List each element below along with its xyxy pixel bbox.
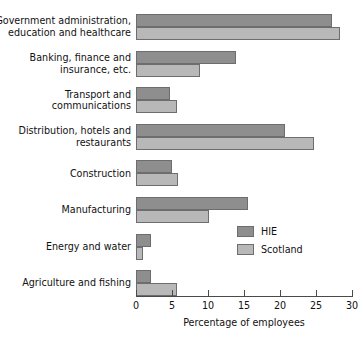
x-tick-5 bbox=[172, 290, 173, 297]
x-tick-15 bbox=[244, 290, 245, 297]
bar-scotland-1 bbox=[136, 64, 200, 77]
category-label-line: restaurants bbox=[19, 137, 131, 149]
category-label-line: insurance, etc. bbox=[30, 64, 131, 76]
bar-hie-7 bbox=[136, 270, 151, 283]
category-label-line: Energy and water bbox=[46, 241, 131, 253]
x-tick-label-0: 0 bbox=[133, 300, 139, 311]
bar-hie-5 bbox=[136, 197, 248, 210]
category-label-line: education and healthcare bbox=[0, 27, 131, 39]
legend-swatch-icon bbox=[237, 244, 254, 255]
bar-scotland-3 bbox=[136, 137, 314, 150]
bar-scotland-6 bbox=[136, 247, 143, 260]
category-label-text: Transport andcommunications bbox=[52, 89, 131, 112]
bar-chart: Government administration,education and … bbox=[0, 0, 363, 350]
bar-scotland-2 bbox=[136, 100, 177, 113]
x-tick-label-5: 5 bbox=[169, 300, 175, 311]
category-label-text: Construction bbox=[70, 168, 131, 180]
category-label-line: communications bbox=[52, 100, 131, 112]
category-label-line: Government administration, bbox=[0, 15, 131, 27]
bar-hie-3 bbox=[136, 124, 285, 137]
x-tick-0 bbox=[136, 290, 137, 297]
x-tick-25 bbox=[316, 290, 317, 297]
legend-item-scotland: Scotland bbox=[237, 240, 303, 258]
x-tick-label-20: 20 bbox=[274, 300, 286, 311]
category-label-line: Manufacturing bbox=[62, 204, 131, 216]
category-label-line: Distribution, hotels and bbox=[19, 125, 131, 137]
bar-hie-0 bbox=[136, 14, 332, 27]
category-label-text: Energy and water bbox=[46, 241, 131, 253]
bar-hie-1 bbox=[136, 51, 236, 64]
x-tick-label-30: 30 bbox=[346, 300, 358, 311]
x-tick-10 bbox=[208, 290, 209, 297]
bar-hie-4 bbox=[136, 160, 172, 173]
legend-label: HIE bbox=[261, 226, 277, 237]
category-label-line: Transport and bbox=[52, 89, 131, 101]
category-label-text: Banking, finance andinsurance, etc. bbox=[30, 52, 131, 75]
chart-legend: HIEScotland bbox=[237, 222, 303, 258]
legend-swatch-icon bbox=[237, 226, 254, 237]
x-tick-label-10: 10 bbox=[202, 300, 214, 311]
bar-hie-2 bbox=[136, 87, 170, 100]
category-label-text: Manufacturing bbox=[62, 204, 131, 216]
legend-item-hie: HIE bbox=[237, 222, 303, 240]
category-label-text: Government administration,education and … bbox=[0, 15, 131, 38]
bar-scotland-5 bbox=[136, 210, 209, 223]
category-label-text: Agriculture and fishing bbox=[22, 277, 131, 289]
bar-hie-6 bbox=[136, 234, 151, 247]
category-label-line: Banking, finance and bbox=[30, 52, 131, 64]
category-label-line: Agriculture and fishing bbox=[22, 277, 131, 289]
category-label-text: Distribution, hotels andrestaurants bbox=[19, 125, 131, 148]
category-label-line: Construction bbox=[70, 168, 131, 180]
bar-scotland-7 bbox=[136, 283, 177, 296]
legend-label: Scotland bbox=[261, 244, 303, 255]
bar-scotland-0 bbox=[136, 27, 340, 40]
bar-scotland-4 bbox=[136, 173, 178, 186]
x-tick-20 bbox=[280, 290, 281, 297]
x-tick-label-25: 25 bbox=[310, 300, 322, 311]
x-tick-label-15: 15 bbox=[238, 300, 250, 311]
x-axis-title: Percentage of employees bbox=[136, 317, 352, 328]
x-tick-30 bbox=[352, 290, 353, 297]
